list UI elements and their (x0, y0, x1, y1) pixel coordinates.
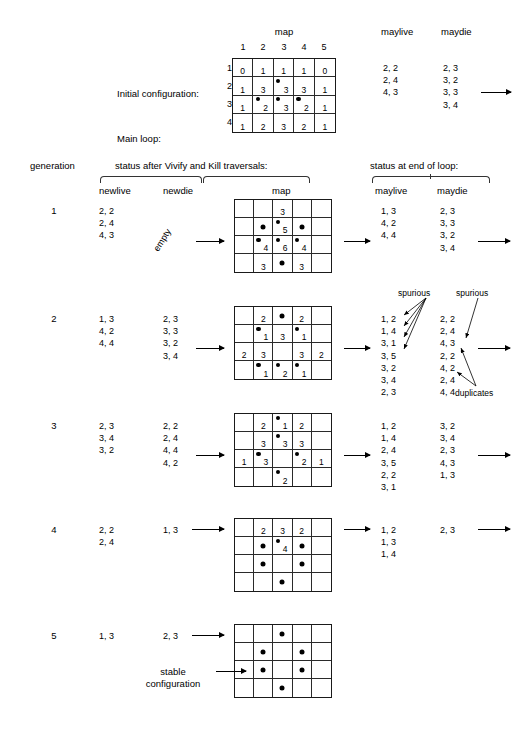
initial-map-cell-2-3: 3 (274, 77, 294, 95)
newlive-list-2: 1, 3 4, 2 4, 4 (99, 313, 114, 350)
map-2-cell-1-3 (273, 307, 292, 325)
cell-count: 1 (315, 103, 335, 113)
cell-count: 1 (274, 66, 293, 76)
map-4-cell-3-4 (293, 555, 312, 573)
newlive-list-1: 2, 2 2, 4 4, 3 (99, 205, 114, 242)
map-3-cell-2-3: 3 (273, 432, 292, 450)
cell-count: 2 (273, 369, 291, 379)
maylive-list-2: 1, 2 1, 4 3, 1 3, 5 3, 2 3, 4 2, 3 (381, 313, 396, 398)
spurious-label-left: spurious (398, 288, 430, 298)
initial-map-cell-3-2: 2 (253, 96, 273, 114)
initial-col-header-1: 1 (233, 42, 253, 52)
initial-map-cell-2-5: 1 (315, 77, 335, 95)
initial-map-cell-1-2: 1 (253, 59, 273, 77)
map-2-cell-4-5 (312, 361, 331, 379)
map-2-cell-2-1 (235, 325, 254, 343)
cell-count: 3 (293, 262, 311, 272)
cell-count: 1 (233, 103, 252, 113)
live-cell-dot-icon (299, 561, 304, 566)
flow-arrow-end-1 (478, 241, 510, 242)
map-4-cell-3-2 (254, 555, 273, 573)
live-cell-dot-icon (276, 220, 280, 224)
map-3-cell-3-5: 1 (312, 450, 331, 468)
cell-count: 2 (312, 350, 331, 360)
map-1-cell-4-3 (273, 254, 292, 272)
initial-flow-arrow (481, 92, 511, 93)
live-cell-dot-icon (276, 363, 280, 367)
live-cell-dot-icon (276, 416, 280, 420)
initial-map-cell-3-3: 3 (274, 96, 294, 114)
map-5-cell-4-4 (293, 679, 312, 697)
map-4-cell-3-1 (235, 555, 254, 573)
cell-count: 1 (312, 457, 331, 467)
cell-count: 2 (273, 476, 291, 486)
flow-arrow-out-4 (344, 529, 370, 530)
cell-count: 3 (274, 122, 293, 132)
cell-count: 1 (235, 457, 253, 467)
initial-row-header-1: 1 (220, 63, 232, 73)
map-3-cell-4-3: 2 (273, 468, 292, 486)
cell-count: 1 (253, 66, 272, 76)
cell-count: 5 (273, 225, 291, 235)
map-5-cell-4-3 (273, 679, 292, 697)
map-4-cell-2-3: 4 (273, 537, 292, 555)
live-cell-dot-icon (299, 667, 304, 672)
newdie-list-2: 2, 3 3, 3 3, 2 3, 4 (163, 313, 178, 362)
map-3-cell-2-1 (235, 432, 254, 450)
map-2-cell-4-1 (235, 361, 254, 379)
live-cell-dot-icon (299, 224, 304, 229)
flow-arrow-out-2 (344, 348, 370, 349)
newlive-list-3: 2, 3 3, 4 3, 2 (99, 420, 114, 457)
live-cell-dot-icon (261, 561, 266, 566)
live-cell-dot-icon (299, 649, 304, 654)
maylive-list-3: 1, 2 1, 4 2, 4 3, 5 2, 2 3, 1 (381, 420, 396, 493)
map-grid-2: 221312332121 (234, 306, 332, 380)
initial-row-header-2: 2 (220, 81, 232, 91)
live-cell-dot-icon (256, 363, 260, 367)
cell-count: 3 (253, 85, 272, 95)
map-5-cell-2-2 (254, 643, 273, 661)
cell-count: 1 (273, 421, 291, 431)
initial-maylive-list: 2, 2 2, 4 4, 3 (383, 62, 398, 99)
map-5-cell-1-1 (235, 625, 254, 643)
flow-arrow-end-2 (478, 348, 510, 349)
cell-count: 1 (254, 332, 272, 342)
map-2-cell-3-5: 2 (312, 343, 331, 361)
flow-arrow-in-5 (192, 635, 224, 636)
newdie-list-3: 2, 2 2, 4 4, 4 4, 2 (163, 420, 178, 469)
cell-count: 3 (254, 262, 272, 272)
map-2-cell-1-4: 2 (293, 307, 312, 325)
generation-heading: generation (30, 160, 75, 171)
map-1-cell-4-4: 3 (293, 254, 312, 272)
map-4-cell-2-1 (235, 537, 254, 555)
map-4-cell-2-5 (312, 537, 331, 555)
cell-count: 3 (274, 85, 293, 95)
cell-count: 2 (293, 314, 311, 324)
map-1-cell-1-4 (293, 200, 312, 218)
map-1-cell-3-2: 4 (254, 236, 273, 254)
map-5-cell-2-1 (235, 643, 254, 661)
maydie-list-2: 2, 2 2, 4 4, 3 2, 2 4, 2 2, 4 4, 4 (440, 313, 455, 398)
initial-map-cell-1-1: 0 (233, 59, 253, 77)
initial-map-cell-2-2: 3 (253, 77, 273, 95)
stable-configuration-line2: configuration (130, 678, 216, 689)
generation-number-4: 4 (44, 524, 64, 535)
cell-count: 2 (253, 122, 272, 132)
map-5-cell-4-5 (312, 679, 331, 697)
map-3-cell-4-4 (293, 468, 312, 486)
map-1-cell-1-2 (254, 200, 273, 218)
map-grid-4: 2324 (234, 518, 332, 592)
status-end-heading: status at end of loop: (370, 160, 458, 171)
initial-col-header-5: 5 (314, 42, 334, 52)
map-2-cell-2-5 (312, 325, 331, 343)
cell-count: 3 (273, 207, 291, 217)
map-2-cell-3-4: 3 (293, 343, 312, 361)
maylive-heading: maylive (375, 185, 407, 196)
initial-col-header-4: 4 (294, 42, 314, 52)
map-5-cell-1-4 (293, 625, 312, 643)
live-cell-dot-icon (261, 224, 266, 229)
live-cell-dot-icon (256, 327, 260, 331)
cell-count: 1 (294, 66, 313, 76)
live-cell-dot-icon (276, 238, 280, 242)
initial-col-header-3: 3 (274, 42, 294, 52)
